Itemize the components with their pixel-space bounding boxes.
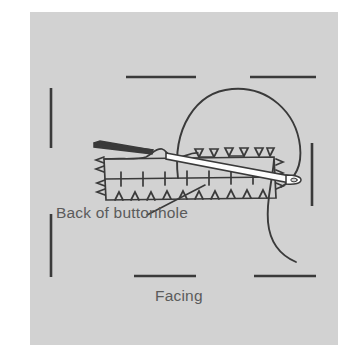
top-edge-stitches (195, 148, 274, 157)
fabric-edge (94, 141, 153, 154)
needle-eye-hole (291, 178, 297, 182)
label-back-of-buttonhole: Back of buttonhole (56, 204, 188, 222)
label-facing: Facing (155, 287, 203, 305)
left-edge-stitches (96, 157, 105, 195)
buttonhole-center-line (105, 177, 275, 179)
illustration-page: Back of buttonhole Facing (0, 0, 352, 357)
